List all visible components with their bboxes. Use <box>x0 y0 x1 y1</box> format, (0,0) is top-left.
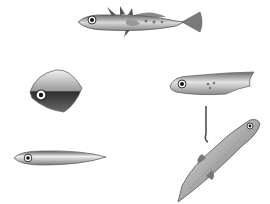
cigar-model <box>12 148 108 168</box>
rhomboid-model <box>26 66 86 114</box>
suspension-wire <box>205 106 208 142</box>
realistic-stickleback-model <box>76 4 208 40</box>
tadpole-model <box>168 68 258 98</box>
suspended-fish-model <box>172 106 264 204</box>
